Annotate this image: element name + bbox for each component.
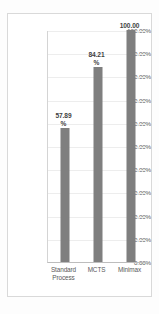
x-axis-tick-label-mcts: MCTS: [80, 266, 113, 274]
data-label-value: 84.21: [88, 51, 104, 58]
bar-standard-process[interactable]: [60, 128, 69, 262]
chart-frame: 100.00% 90.00% 80.00% 70.00% 60.00% 50.0…: [7, 13, 152, 297]
x-axis-tick-label-standard-process: Standard Process: [47, 266, 80, 283]
data-label-mcts: 84.21 %: [80, 51, 113, 66]
x-axis-label-line: Process: [47, 274, 80, 282]
data-label-minimax: 100.00: [113, 22, 146, 29]
data-label-value: 57.89: [55, 112, 71, 119]
bar-minimax[interactable]: [126, 30, 135, 262]
data-label-standard-process: 57.89 %: [47, 112, 80, 127]
x-axis-tick-label-minimax: Minimax: [113, 266, 146, 274]
data-label-value: 100.00: [120, 22, 140, 29]
data-label-unit: %: [80, 59, 113, 66]
bar-chart: 100.00% 90.00% 80.00% 70.00% 60.00% 50.0…: [0, 0, 159, 314]
x-axis-label-line: Minimax: [113, 266, 146, 274]
x-axis-label-line: Standard: [47, 266, 80, 274]
x-axis-label-line: MCTS: [80, 266, 113, 274]
bar-slot: [48, 31, 81, 262]
bar-slot: [114, 31, 147, 262]
bar-mcts[interactable]: [93, 67, 102, 262]
data-label-unit: %: [47, 120, 80, 127]
